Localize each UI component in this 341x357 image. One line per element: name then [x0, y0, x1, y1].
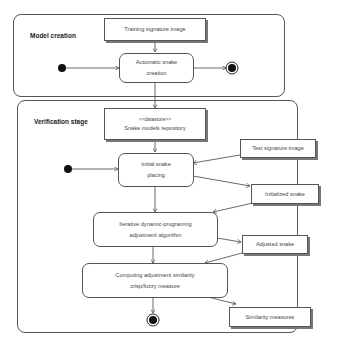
activity-line: Initial snake [141, 159, 171, 170]
start-node-verification [64, 165, 72, 173]
activity-line: adjustment algorithm [130, 230, 182, 241]
activity-line: Iterative dynamic-programing [119, 219, 191, 230]
datastore-stereotype: <<datastore>> [139, 116, 172, 124]
initialized-snake-label: Initialized snake [265, 190, 305, 198]
activity-line: creation [147, 68, 167, 79]
activity-line: Automatic snake [136, 57, 177, 68]
snake-models-repository-label: Snake models repository [124, 124, 186, 132]
activity-line: Computing adjustment similarity [115, 270, 194, 281]
start-node-model [58, 64, 66, 72]
computing-similarity-activity: Computing adjustment similarity crisp/fu… [82, 263, 228, 298]
initial-snake-placing-activity: Initial snake placing [118, 153, 194, 187]
snake-models-repository-node: <<datastore>> Snake models repository [104, 108, 206, 140]
adjusted-snake-label: Adjusted snake [256, 240, 294, 248]
iterative-adjustment-activity: Iterative dynamic-programing adjustment … [93, 212, 218, 247]
activity-line: placing [147, 170, 165, 181]
training-signature-image-label: Training signature image [124, 25, 185, 33]
final-node-model [228, 64, 236, 72]
activity-line: crisp/fuzzy measure [130, 281, 180, 292]
adjusted-snake-node: Adjusted snake [242, 235, 308, 254]
test-signature-image-node: Test signature image [240, 139, 316, 158]
final-node-verification [149, 316, 157, 324]
similarity-measures-label: Similarity measures [246, 313, 295, 321]
training-signature-image-node: Training signature image [104, 18, 206, 41]
initialized-snake-node: Initialized snake [251, 184, 319, 204]
similarity-measures-node: Similarity measures [229, 307, 311, 327]
automatic-snake-creation-activity: Automatic snake creation [119, 53, 194, 83]
test-signature-image-label: Test signature image [252, 144, 304, 152]
